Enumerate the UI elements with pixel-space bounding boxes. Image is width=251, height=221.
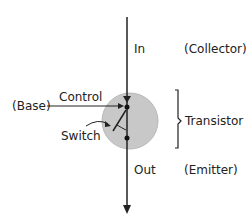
base-label: (Base) [12,99,51,113]
emitter-label: (Emitter) [184,163,238,177]
transistor-switch-diagram: In (Collector) Control (Base) Switch Tra… [0,0,251,221]
lower-contact-dot [125,136,130,141]
transistor-bracket [175,90,181,148]
collector-label: (Collector) [184,42,247,56]
transistor-label: Transistor [185,114,243,128]
upper-contact-dot [125,105,130,110]
transistor-body-circle [102,93,158,149]
out-arrowhead-icon [123,205,131,214]
out-label: Out [134,163,156,177]
in-label: In [134,42,145,56]
control-label: Control [59,90,102,104]
switch-label: Switch [61,129,101,143]
